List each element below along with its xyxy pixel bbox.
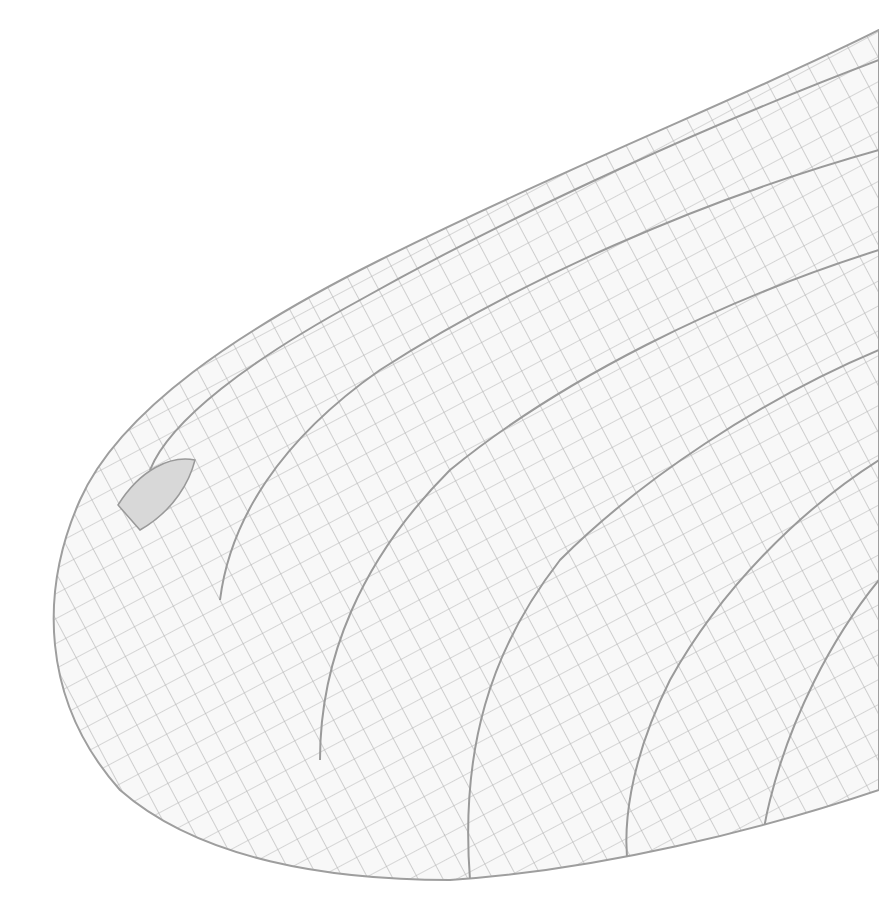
wing-membrane	[54, 30, 879, 880]
wing-photo: Dragonfly wing venation (apical portion)	[0, 0, 879, 917]
dragonfly-wing	[0, 0, 879, 917]
